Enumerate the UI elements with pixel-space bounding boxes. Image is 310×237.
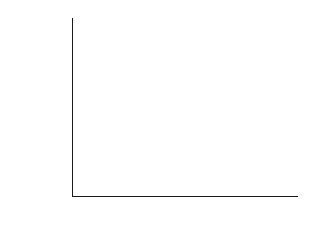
y-axis-tick-labels <box>30 0 66 237</box>
y-axis-spine <box>72 18 73 196</box>
plot-area <box>73 19 297 196</box>
y-axis-title <box>8 0 30 200</box>
chart-figure <box>0 0 310 237</box>
x-axis-spine <box>72 196 298 197</box>
